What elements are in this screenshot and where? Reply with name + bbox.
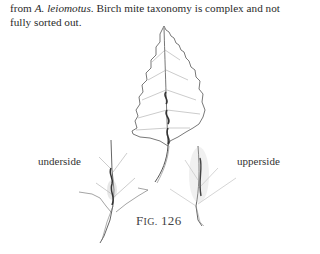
caption-number: 126	[161, 213, 181, 228]
upperside-label: upperside	[237, 155, 280, 167]
figure-caption: FIG. 126	[136, 213, 181, 229]
underside-label: underside	[38, 155, 81, 167]
caption-smallcaps: IG.	[144, 216, 158, 227]
caption-initial: F	[136, 213, 144, 228]
